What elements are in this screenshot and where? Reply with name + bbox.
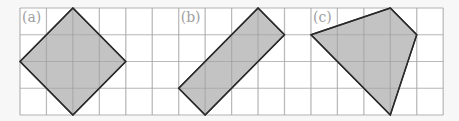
label-c: (c) — [313, 9, 332, 25]
label-a: (a) — [22, 9, 41, 25]
label-b: (b) — [181, 9, 201, 25]
grid-figure: (a) (b) (c) — [0, 0, 459, 121]
